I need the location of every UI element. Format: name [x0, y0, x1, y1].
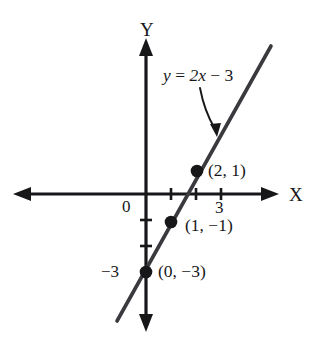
equation-intercept: 3 — [225, 65, 234, 85]
coordinate-plane-svg — [0, 0, 317, 345]
graph-figure: Y X y = 2x − 3 0 3 −3 (2, 1) (1, −1) (0,… — [0, 0, 317, 345]
origin-label: 0 — [122, 198, 131, 215]
x-axis-label: X — [289, 185, 303, 204]
y-axis-up-arrowhead — [139, 38, 153, 56]
point-label-2-1: (2, 1) — [208, 162, 246, 180]
y-axis-down-arrowhead — [139, 314, 153, 332]
data-point-2-1 — [191, 165, 204, 178]
point-label-1-neg1: (1, −1) — [185, 217, 233, 235]
y-tick-label-neg3: −3 — [101, 263, 119, 280]
data-point-0-neg3 — [140, 266, 153, 279]
equation-equals: = — [175, 65, 185, 85]
y-axis-label: Y — [140, 20, 154, 39]
y-axis — [139, 38, 153, 332]
equation-label: y = 2x − 3 — [163, 67, 233, 85]
x-axis-left-arrowhead — [13, 187, 31, 201]
data-point-1-neg1 — [165, 216, 178, 229]
x-tick-label-3: 3 — [215, 199, 224, 216]
equation-slope-term: 2x — [189, 65, 206, 85]
x-axis-right-arrowhead — [261, 187, 279, 201]
point-label-0-neg3: (0, −3) — [158, 263, 206, 281]
equation-minus: − — [210, 65, 220, 85]
equation-lhs: y — [163, 65, 171, 85]
annotation-arrow — [200, 88, 221, 137]
